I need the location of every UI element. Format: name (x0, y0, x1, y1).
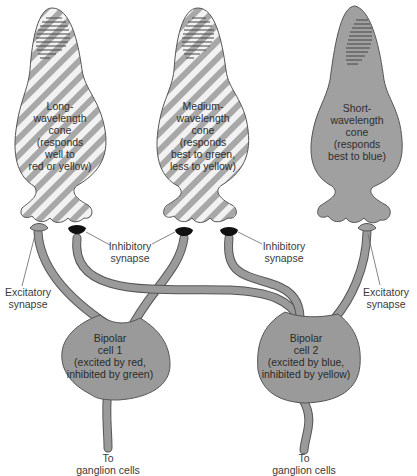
excitatory-synapse-right (358, 224, 376, 232)
medium-cone-label: Medium- wavelength cone (responds best t… (156, 100, 250, 172)
ganglion-output-label-2: To ganglion cells (264, 452, 344, 476)
short-cone-label: Short- wavelength cone (responds best to… (312, 102, 402, 162)
inhibitory-synapse-long (68, 225, 86, 234)
excitatory-synapse-label-left: Excitatory synapse (2, 286, 54, 310)
long-cone-label: Long- wavelength cone (responds well to … (14, 100, 106, 172)
ganglion-output-label-1: To ganglion cells (68, 452, 148, 476)
inhibitory-synapse-label-right: Inhibitory synapse (258, 240, 310, 264)
excitatory-synapse-label-right: Excitatory synapse (358, 286, 414, 310)
inhibitory-synapse-label-left: Inhibitory synapse (104, 240, 156, 264)
inhibitory-synapse-medium-right (220, 227, 238, 236)
excitatory-synapse-left (30, 224, 48, 232)
inhibitory-synapse-medium-left (175, 227, 193, 236)
bipolar-cell-2-label: Bipolar cell 2 (excited by blue, inhibit… (252, 332, 360, 380)
bipolar-cell-1-label: Bipolar cell 1 (excited by red, inhibite… (58, 332, 162, 380)
retina-circuit-diagram (0, 0, 417, 476)
